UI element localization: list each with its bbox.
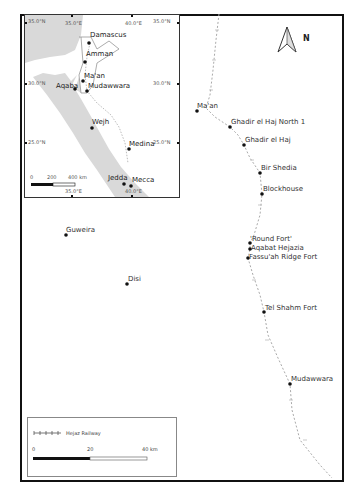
label-bir-shedia: Bir Shedia: [261, 165, 297, 172]
north-label: N: [303, 34, 310, 43]
tick-lat-25-left: 25.0°N: [28, 140, 45, 145]
inset-scale-200: 200: [47, 175, 57, 180]
legend-scale-0: 0: [32, 447, 35, 452]
label-mudawwara: Mudawwara: [291, 376, 333, 383]
label-fassuah-ridge-fort: Fassu'ah Ridge Fort: [249, 254, 317, 261]
label-guweira: Guweira: [66, 227, 95, 234]
inset-map: Damascus Amman Ma'an Aqaba Mudawwara Wej…: [24, 14, 180, 198]
label-disi: Disi: [128, 276, 141, 283]
legend-scale-bar-white: [90, 457, 147, 460]
inset-label-wejh: Wejh: [92, 119, 109, 126]
inset-scale-400: 400 km: [68, 175, 87, 180]
label-maan: Ma'an: [197, 103, 218, 110]
tick-lat-30-left: 30.0°N: [28, 81, 45, 86]
inset-map-canvas: [25, 15, 179, 197]
legend-box: Hejaz Railway 0 20 40 km: [27, 417, 177, 477]
tick-lon-35-top: 35.0°E: [65, 21, 82, 26]
inset-label-aqaba: Aqaba: [56, 83, 78, 90]
legend-scale-20: 20: [87, 447, 93, 452]
tick-lon-40-bottom: 40.0°E: [125, 189, 142, 194]
label-ghadir-el-haj: Ghadir el Haj: [245, 137, 291, 144]
legend-scale-40: 40 km: [142, 447, 158, 452]
north-arrow-icon: [276, 25, 298, 55]
label-tel-shahm-fort: Tel Shahm Fort: [265, 305, 317, 312]
inset-label-mecca: Mecca: [132, 177, 154, 184]
legend-railway-label: Hejaz Railway: [66, 431, 101, 436]
inset-label-damascus: Damascus: [90, 32, 126, 39]
tick-lat-30-right: 30.0°N: [153, 81, 170, 86]
label-blockhouse: Blockhouse: [263, 186, 303, 193]
inset-label-jedda: Jedda: [108, 175, 128, 182]
legend-scale-bar-black: [33, 457, 90, 460]
inset-label-medina: Medina: [129, 141, 154, 148]
tick-lat-35-right: 35.0°N: [153, 19, 170, 24]
inset-scale-0: 0: [30, 175, 33, 180]
inset-label-amman: Amman: [86, 51, 113, 58]
inset-label-mudawwara: Mudawwara: [88, 83, 130, 90]
label-aqabat-hejazia: Aqabat Hejazia: [251, 245, 304, 252]
label-ghadir-el-haj-north-1: Ghadir el Haj North 1: [231, 119, 305, 126]
tick-lat-25-right: 25.0°N: [153, 140, 170, 145]
tick-lat-35-left: 35.0°N: [28, 19, 45, 24]
tick-lon-35-bottom: 35.0°E: [65, 189, 82, 194]
inset-label-maan: Ma'an: [84, 73, 105, 80]
label-round-fort: 'Round Fort': [250, 236, 292, 243]
tick-lon-40-top: 40.0°E: [125, 21, 142, 26]
